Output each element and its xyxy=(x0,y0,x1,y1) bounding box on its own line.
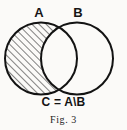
shaded-region-a-minus-b xyxy=(0,0,127,130)
venn-diagram xyxy=(0,0,127,130)
set-label-b: B xyxy=(70,6,86,19)
set-label-a: A xyxy=(31,6,47,19)
figure-number-caption: Fig. 3 xyxy=(0,114,127,125)
figure-container: A B C = A\B Fig. 3 xyxy=(0,0,127,130)
set-difference-formula: C = A\B xyxy=(0,95,127,109)
